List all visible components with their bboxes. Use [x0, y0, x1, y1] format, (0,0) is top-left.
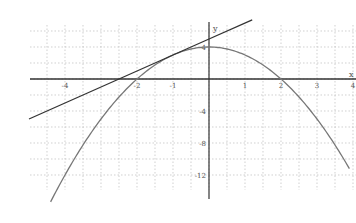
- x-tick-label: 4: [351, 82, 356, 90]
- y-tick-label: -4: [199, 108, 206, 116]
- x-tick-label: 1: [243, 82, 247, 90]
- x-axis-label: x: [349, 70, 354, 79]
- x-tick-label: 2: [279, 82, 283, 90]
- grid-lines: [30, 25, 356, 190]
- tangent-line: [29, 20, 252, 119]
- x-tick-label: -1: [170, 82, 177, 90]
- y-axis-label: y: [212, 24, 218, 33]
- x-tick-label: -2: [134, 82, 141, 90]
- function-graph: -4-2-112344-4-8-12 y x: [0, 0, 356, 223]
- series: [29, 20, 349, 202]
- y-tick-label: -8: [199, 140, 206, 148]
- x-tick-label: 3: [315, 82, 319, 90]
- y-tick-label: -12: [195, 172, 206, 180]
- x-tick-label: -4: [62, 82, 69, 90]
